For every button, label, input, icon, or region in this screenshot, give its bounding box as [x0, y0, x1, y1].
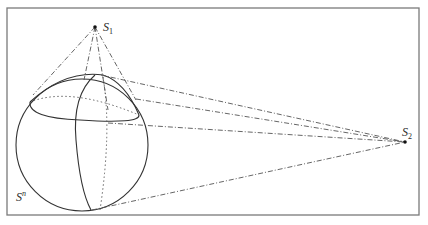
label-s2: S2 [402, 125, 412, 141]
point-s2 [403, 140, 407, 144]
meridian-front [75, 75, 95, 210]
diagram-canvas: S1 S2 Sn [0, 0, 428, 225]
sphere-outline [16, 79, 148, 211]
point-s1 [93, 25, 97, 29]
label-s1: S1 [103, 20, 113, 36]
latitude-circle-back [30, 96, 139, 115]
s1-projection-lines [33, 27, 136, 110]
label-sphere: Sn [16, 189, 26, 204]
s2-projection-lines [92, 75, 405, 210]
latitude-circle-front [30, 102, 139, 121]
